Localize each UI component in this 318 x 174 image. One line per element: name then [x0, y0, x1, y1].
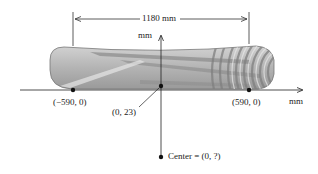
right-end-label: (590, 0) — [232, 98, 261, 107]
y-axis-label: mm — [138, 31, 152, 40]
snowboard — [50, 0, 318, 150]
point-top-center — [159, 84, 163, 88]
x-axis-label: mm — [289, 97, 303, 106]
point-right-end — [247, 88, 251, 92]
point-center — [159, 155, 163, 159]
leader-line — [139, 88, 159, 107]
width-label: 1180 mm — [142, 14, 176, 23]
center-label: Center = (0, ?) — [168, 152, 221, 161]
snowboard-diagram — [0, 0, 318, 174]
left-end-label: (−590, 0) — [53, 98, 87, 107]
top-center-label: (0, 23) — [112, 108, 136, 117]
point-left-end — [71, 88, 75, 92]
